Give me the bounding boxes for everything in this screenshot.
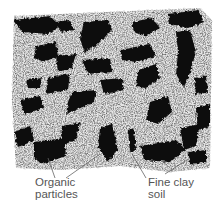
label-clay-line-1: Fine clay [148,176,194,188]
label-fine-clay-soil: Fine clay soil [148,176,194,200]
label-organic-particles: Organic particles [35,176,78,200]
label-clay-line-2: soil [148,188,194,200]
label-organic-line-1: Organic [35,176,78,188]
label-organic-line-2: particles [35,188,78,200]
